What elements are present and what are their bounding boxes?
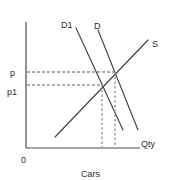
chart-canvas: p p1 D1 D S Qty 0 Cars (0, 0, 173, 180)
demand-label: D (94, 21, 101, 31)
demand-shifted-curve (76, 28, 123, 130)
price-high-label: p (10, 68, 15, 78)
supply-label: S (152, 39, 158, 49)
demand-shifted-label: D1 (61, 20, 73, 30)
supply-curve (55, 40, 148, 137)
x-axis-caption: Cars (81, 169, 101, 179)
origin-label: 0 (21, 155, 26, 165)
x-axis-label: Qty (141, 139, 156, 149)
economics-supply-demand-figure: p p1 D1 D S Qty 0 Cars (0, 0, 173, 180)
demand-curve (98, 30, 138, 130)
price-low-label: p1 (7, 87, 17, 97)
